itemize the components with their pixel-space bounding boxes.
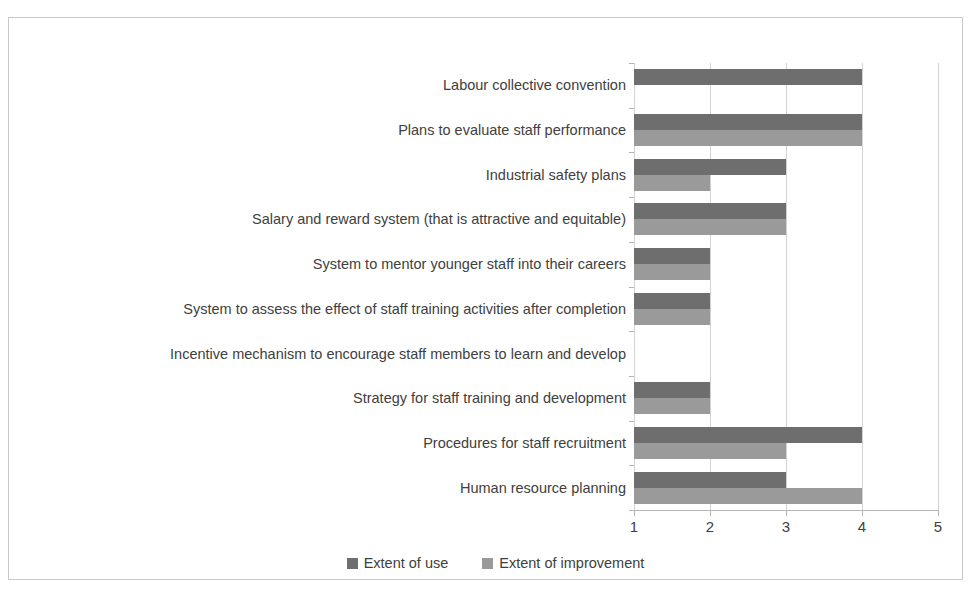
- category-row: Human resource planning: [634, 465, 938, 510]
- x-tick-mark-2: [710, 510, 711, 516]
- legend-label: Extent of improvement: [499, 555, 644, 571]
- category-row: System to mentor younger staff into thei…: [634, 242, 938, 287]
- bar-extent-of-use: [634, 203, 786, 219]
- bar-extent-of-improvement: [634, 175, 710, 191]
- bar-extent-of-use: [634, 427, 862, 443]
- legend-item[interactable]: Extent of use: [347, 555, 449, 571]
- category-row: Strategy for staff training and developm…: [634, 376, 938, 421]
- category-label: System to mentor younger staff into thei…: [106, 255, 626, 273]
- bar-extent-of-use: [634, 293, 710, 309]
- category-bars: [634, 152, 938, 197]
- legend-swatch-icon: [347, 558, 358, 569]
- category-label: Salary and reward system (that is attrac…: [106, 210, 626, 228]
- category-label: Strategy for staff training and developm…: [106, 389, 626, 407]
- legend-swatch-icon: [482, 558, 493, 569]
- x-tick-mark-3: [786, 510, 787, 516]
- bar-extent-of-use: [634, 69, 862, 85]
- bar-extent-of-use: [634, 382, 710, 398]
- chart-figure: 12345 Labour collective conventionPlans …: [0, 0, 973, 601]
- bar-extent-of-use: [634, 114, 862, 130]
- x-tick-label-3: 3: [771, 518, 801, 535]
- category-row: Plans to evaluate staff performance: [634, 108, 938, 153]
- bar-extent-of-improvement: [634, 488, 862, 504]
- chart-legend: Extent of useExtent of improvement: [9, 555, 973, 571]
- category-label: Labour collective convention: [106, 76, 626, 94]
- legend-item[interactable]: Extent of improvement: [482, 555, 644, 571]
- bar-extent-of-improvement: [634, 443, 786, 459]
- gridline-5: [938, 63, 939, 510]
- category-label: Plans to evaluate staff performance: [106, 121, 626, 139]
- category-bars: [634, 287, 938, 332]
- x-tick-label-1: 1: [619, 518, 649, 535]
- category-row: Labour collective convention: [634, 63, 938, 108]
- category-bars: [634, 331, 938, 376]
- category-bars: [634, 197, 938, 242]
- category-label: System to assess the effect of staff tra…: [106, 300, 626, 318]
- bar-extent-of-improvement: [634, 264, 710, 280]
- category-label: Industrial safety plans: [106, 166, 626, 184]
- category-bars: [634, 421, 938, 466]
- category-label: Procedures for staff recruitment: [106, 434, 626, 452]
- plot-area: Labour collective conventionPlans to eva…: [634, 63, 938, 510]
- x-tick-label-2: 2: [695, 518, 725, 535]
- category-row: Procedures for staff recruitment: [634, 421, 938, 466]
- category-bars: [634, 63, 938, 108]
- x-tick-label-4: 4: [847, 518, 877, 535]
- category-row: Salary and reward system (that is attrac…: [634, 197, 938, 242]
- x-tick-mark-1: [634, 510, 635, 516]
- category-row: Industrial safety plans: [634, 152, 938, 197]
- x-tick-mark-4: [862, 510, 863, 516]
- bar-extent-of-use: [634, 248, 710, 264]
- category-row: Incentive mechanism to encourage staff m…: [634, 331, 938, 376]
- category-label: Human resource planning: [106, 479, 626, 497]
- bar-extent-of-use: [634, 472, 786, 488]
- category-row: System to assess the effect of staff tra…: [634, 287, 938, 332]
- category-bars: [634, 108, 938, 153]
- bar-extent-of-improvement: [634, 398, 710, 414]
- x-tick-mark-5: [938, 510, 939, 516]
- bar-extent-of-improvement: [634, 309, 710, 325]
- category-bars: [634, 465, 938, 510]
- category-bars: [634, 242, 938, 287]
- x-tick-label-5: 5: [923, 518, 953, 535]
- chart-frame: 12345 Labour collective conventionPlans …: [8, 17, 963, 580]
- bar-extent-of-use: [634, 159, 786, 175]
- bar-extent-of-improvement: [634, 219, 786, 235]
- category-bars: [634, 376, 938, 421]
- bar-extent-of-improvement: [634, 130, 862, 146]
- legend-label: Extent of use: [364, 555, 449, 571]
- category-tick-mark: [629, 510, 634, 511]
- category-label: Incentive mechanism to encourage staff m…: [106, 345, 626, 363]
